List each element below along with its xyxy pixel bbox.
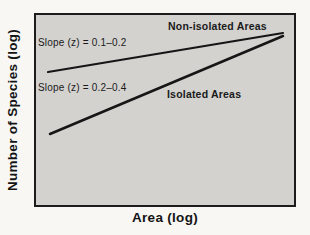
slope-annotation-non-isolated: Slope (z) = 0.1–0.2 (38, 37, 127, 48)
figure-canvas: Number of Species (log) Slope (z) = 0.1–… (0, 0, 310, 235)
series-label-non-isolated: Non-isolated Areas (168, 20, 267, 32)
series-label-isolated: Isolated Areas (167, 88, 241, 100)
slope-annotation-isolated: Slope (z) = 0.2–0.4 (38, 82, 127, 93)
x-axis-label: Area (log) (34, 210, 296, 225)
plot-area: Slope (z) = 0.1–0.2 Non-isolated Areas S… (34, 13, 296, 207)
y-axis-label: Number of Species (log) (3, 10, 23, 210)
